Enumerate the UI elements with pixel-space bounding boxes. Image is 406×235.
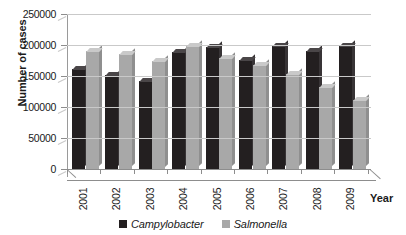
bar-chart: Number of cases 050000100000150000200000… bbox=[0, 0, 406, 235]
gridline bbox=[67, 76, 371, 77]
y-axis-tick bbox=[61, 169, 67, 170]
y-axis-tick bbox=[61, 76, 67, 77]
bar-top bbox=[253, 62, 270, 66]
legend-label: Campylobacter bbox=[131, 218, 204, 230]
bar-face bbox=[86, 51, 99, 169]
bar-campylobacter-2003 bbox=[139, 81, 152, 169]
y-axis-tick bbox=[61, 45, 67, 46]
bar-side bbox=[99, 46, 102, 166]
bar-salmonella-2006 bbox=[253, 65, 266, 169]
bar-campylobacter-2008 bbox=[306, 51, 319, 169]
bar-face bbox=[119, 54, 132, 169]
bar-campylobacter-2001 bbox=[72, 69, 85, 169]
bar-side bbox=[332, 81, 335, 166]
bar-salmonella-2002 bbox=[119, 54, 132, 169]
gridline bbox=[67, 14, 371, 15]
legend-swatch-icon bbox=[222, 220, 230, 228]
y-axis-tick-label: 250000 bbox=[4, 9, 56, 19]
y-axis-tick-label: 200000 bbox=[4, 40, 56, 50]
bar-side bbox=[232, 52, 235, 166]
legend-item-salmonella: Salmonella bbox=[222, 218, 287, 230]
y-axis-tick-labels: 050000100000150000200000250000 bbox=[0, 0, 56, 190]
legend-label: Salmonella bbox=[234, 218, 287, 230]
bar-groups bbox=[58, 14, 376, 181]
bar-salmonella-2007 bbox=[286, 74, 299, 169]
x-axis-tick-label-2006: 2006 bbox=[244, 182, 256, 216]
x-axis-tick-label-2001: 2001 bbox=[77, 182, 89, 216]
bar-salmonella-2005 bbox=[219, 58, 232, 169]
x-axis-tick-label-2003: 2003 bbox=[144, 182, 156, 216]
plot-area bbox=[58, 14, 376, 181]
x-axis-tick-label-2002: 2002 bbox=[110, 182, 122, 216]
bar-top bbox=[306, 48, 323, 52]
x-axis-tick-labels: 200120022003200420052006200720082009 bbox=[58, 183, 376, 219]
bar-face bbox=[286, 74, 299, 169]
bar-face bbox=[139, 81, 152, 169]
x-axis-tick-label-2005: 2005 bbox=[211, 182, 223, 216]
bar-salmonella-2009 bbox=[353, 100, 366, 169]
bar-face bbox=[353, 100, 366, 169]
x-axis-tick-label-2007: 2007 bbox=[277, 182, 289, 216]
bar-face bbox=[219, 58, 232, 169]
x-axis-tick-label-2004: 2004 bbox=[177, 182, 189, 216]
y-axis-tick-label: 150000 bbox=[4, 71, 56, 81]
gridline bbox=[67, 45, 371, 46]
bar-side bbox=[366, 94, 369, 166]
x-axis-title: Year bbox=[370, 192, 393, 204]
bar-campylobacter-2004 bbox=[172, 52, 185, 169]
bar-face bbox=[319, 87, 332, 169]
bar-side bbox=[299, 68, 302, 166]
y-axis-tick bbox=[61, 107, 67, 108]
y-axis-tick bbox=[61, 14, 67, 15]
bar-side bbox=[199, 41, 202, 166]
bar-salmonella-2008 bbox=[319, 87, 332, 169]
chart-legend: CampylobacterSalmonella bbox=[0, 218, 406, 230]
bar-face bbox=[72, 69, 85, 169]
bar-side bbox=[165, 55, 168, 166]
bar-face bbox=[306, 51, 319, 169]
bar-campylobacter-2002 bbox=[105, 75, 118, 169]
bar-salmonella-2001 bbox=[86, 51, 99, 169]
bar-face bbox=[253, 65, 266, 169]
gridline bbox=[67, 138, 371, 139]
bar-face bbox=[172, 52, 185, 169]
y-axis-tick-label: 0 bbox=[4, 164, 56, 174]
gridline bbox=[67, 169, 371, 170]
bar-campylobacter-2005 bbox=[206, 47, 219, 169]
bar-face bbox=[206, 47, 219, 169]
gridline bbox=[67, 107, 371, 108]
y-axis-tick-label: 50000 bbox=[4, 133, 56, 143]
bar-top bbox=[353, 97, 370, 101]
legend-item-campylobacter: Campylobacter bbox=[119, 218, 204, 230]
bar-face bbox=[105, 75, 118, 169]
x-axis-tick-label-2008: 2008 bbox=[311, 182, 323, 216]
y-axis-tick-label: 100000 bbox=[4, 102, 56, 112]
y-axis-tick bbox=[61, 138, 67, 139]
x-axis-tick-label-2009: 2009 bbox=[344, 182, 356, 216]
legend-swatch-icon bbox=[119, 220, 127, 228]
